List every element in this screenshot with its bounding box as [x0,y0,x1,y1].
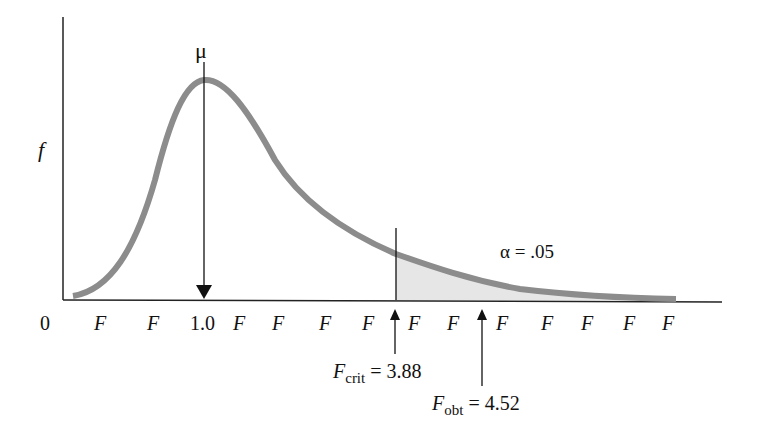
x-tick: F [147,312,159,335]
x-tick: F [362,312,374,335]
x-tick: F [94,312,106,335]
f-obt-label: Fobt = 4.52 [432,392,520,415]
x-tick-one: 1.0 [190,312,215,335]
x-tick: F [447,312,459,335]
x-tick: F [496,312,508,335]
f-obt-arrowhead [477,309,487,320]
x-tick: F [541,312,553,335]
x-tick: F [319,312,331,335]
x-tick: F [581,312,593,335]
x-tick: F [662,312,674,335]
x-tick: F [233,312,245,335]
f-distribution-curve [73,80,676,299]
x-tick: F [623,312,635,335]
f-obt-value: = 4.52 [468,392,519,414]
f-crit-subscript: crit [345,370,365,386]
f-crit-symbol: F [333,360,345,382]
mean-label: μ [195,38,207,64]
y-axis-label: f [38,137,44,163]
alpha-label: α = .05 [500,241,554,263]
mean-arrowhead [196,285,212,299]
x-tick: F [272,312,284,335]
f-crit-arrowhead [390,309,400,320]
x-origin-label: 0 [40,312,50,335]
f-crit-label: Fcrit = 3.88 [333,360,422,383]
f-crit-value: = 3.88 [370,360,421,382]
f-distribution-diagram: μ f α = .05 0 F F 1.0 F F F F F F F F F … [0,0,760,448]
f-obt-symbol: F [432,392,444,414]
x-tick: F [408,312,420,335]
f-obt-subscript: obt [444,402,463,418]
